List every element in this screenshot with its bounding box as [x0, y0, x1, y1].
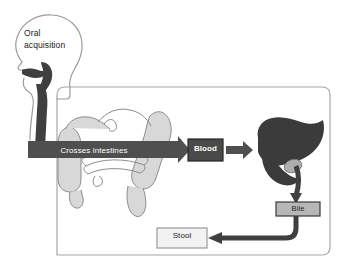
node-bile[interactable] [276, 202, 320, 216]
node-stool[interactable] [157, 228, 207, 248]
diagram-canvas [0, 0, 340, 267]
node-blood[interactable] [188, 139, 223, 161]
diagram-svg [0, 0, 340, 267]
